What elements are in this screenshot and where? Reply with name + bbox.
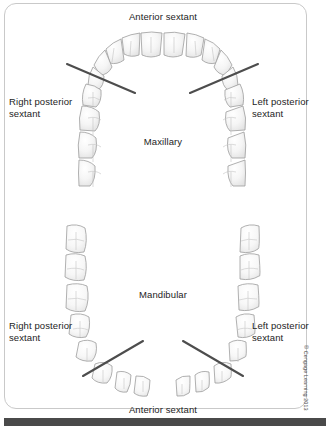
tooth-maxillary-second-molar-left [226, 106, 246, 131]
dental-sextant-figure: Anterior sextant Right posterior sextant… [0, 0, 326, 430]
label-right-posterior-sextant-maxillary: Right posterior sextant [9, 96, 72, 119]
tooth-mandibular-second-molar-right [65, 254, 86, 281]
bottom-bar-shadow [0, 426, 326, 430]
tooth-maxillary-terminal-molar-left [228, 160, 246, 186]
label-anterior-sextant-mandibular: Anterior sextant [0, 404, 326, 416]
tooth-mandibular-lateral-incisor-right [115, 371, 131, 392]
label-mandibular: Mandibular [113, 289, 213, 301]
tooth-maxillary-terminal-molar-right [79, 160, 96, 186]
tooth-mandibular-first-premolar-right [76, 340, 97, 361]
tooth-mandibular-terminal-molar-left [240, 225, 259, 253]
tooth-mandibular-central-incisor-right [134, 376, 150, 396]
tooth-maxillary-second-molar-right [79, 106, 99, 131]
bottom-bar [4, 418, 326, 426]
tooth-mandibular-first-molar-right [66, 284, 88, 312]
tooth-maxillary-third-molar-left [228, 132, 246, 158]
tooth-maxillary-central-incisor-right [141, 32, 162, 57]
label-right-posterior-sextant-mandibular: Right posterior sextant [9, 320, 72, 343]
label-left-posterior-sextant-maxillary: Left posterior sextant [252, 96, 309, 119]
maxillary-arch [78, 32, 246, 186]
tooth-mandibular-canine-left [214, 362, 231, 383]
tooth-maxillary-central-incisor-left [164, 32, 185, 57]
label-anterior-sextant-maxillary: Anterior sextant [0, 11, 326, 23]
label-maxillary: Maxillary [113, 136, 213, 148]
dental-arch-illustration [0, 0, 326, 430]
tooth-mandibular-central-incisor-left [176, 376, 190, 396]
copyright-notice: © Cengage Learning 2013 [299, 345, 309, 425]
tooth-mandibular-second-molar-left [240, 254, 260, 280]
tooth-mandibular-first-molar-left [238, 284, 259, 311]
label-left-posterior-sextant-mandibular: Left posterior sextant [252, 320, 309, 343]
tooth-maxillary-third-molar-right [78, 132, 96, 158]
